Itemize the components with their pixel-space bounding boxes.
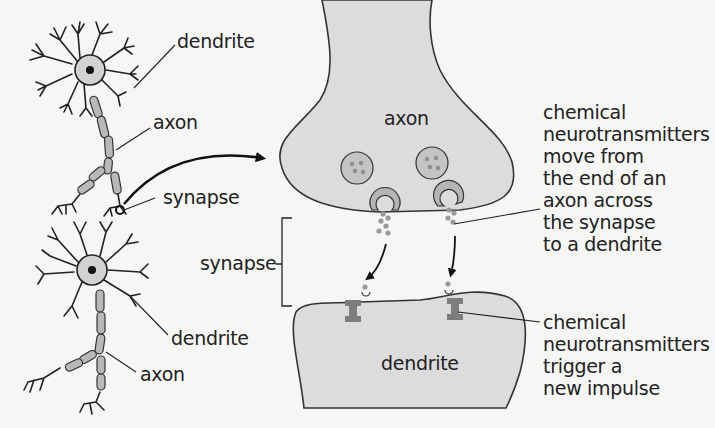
dendrite-shape (293, 292, 525, 408)
vesicle (416, 147, 448, 179)
axon-bottom (64, 290, 105, 390)
label-synapse-left: synapse (163, 186, 239, 209)
label-dendrite-bottom: dendrite (171, 327, 249, 350)
vesicle (341, 152, 373, 184)
label-synapse-bracket: synapse (200, 252, 276, 275)
neuron-top (30, 22, 138, 216)
annotation-neurotransmitter-release: chemical neurotransmitters move from the… (543, 101, 710, 255)
label-dendrite-terminal: dendrite (381, 352, 459, 375)
axon-terminal-shape (280, 0, 514, 212)
label-axon-terminal: axon (384, 107, 429, 130)
neurotransmitters (362, 207, 456, 289)
label-axon-bottom: axon (140, 363, 185, 386)
nucleus-bottom (88, 266, 96, 274)
axon-top (76, 95, 122, 195)
diffusion-arrow-right (451, 236, 455, 274)
annotation-neurotransmitter-trigger: chemical neurotransmitters trigger a new… (543, 311, 710, 399)
label-axon-top: axon (153, 111, 198, 134)
nucleus-top (86, 66, 94, 74)
label-dendrite-top: dendrite (177, 30, 255, 53)
synapse-bracket (276, 218, 292, 306)
neuron-bottom (24, 222, 148, 414)
diffusion-arrow-left (368, 244, 386, 278)
